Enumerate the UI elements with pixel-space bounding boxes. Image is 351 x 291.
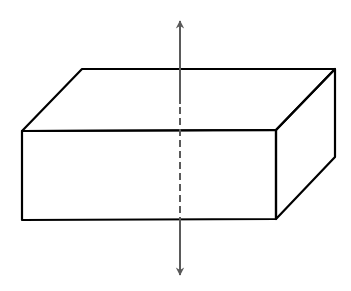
box-front-face [22,130,276,220]
box-with-axis-diagram [0,0,351,291]
box-top-face [22,69,335,131]
box-right-face [276,69,335,219]
